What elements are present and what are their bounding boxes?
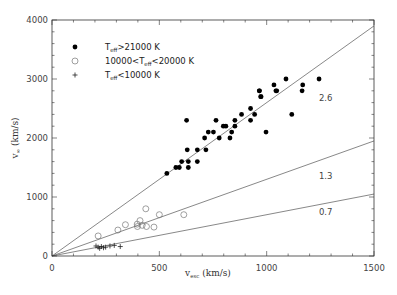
filled-circle-marker (185, 147, 190, 152)
open-circle-marker (181, 212, 187, 218)
filled-circle-marker (186, 159, 191, 164)
filled-circle-marker (232, 124, 237, 129)
plot-frame (52, 20, 374, 256)
reference-line (52, 141, 374, 256)
plus-marker (118, 244, 123, 249)
filled-circle-marker (239, 112, 244, 117)
legend-entry: 10000<Teff<20000 K (105, 56, 194, 67)
reference-lines: 2.61.30.7 (52, 26, 374, 256)
filled-circle-marker (73, 45, 78, 50)
x-tick-label: 1500 (363, 263, 385, 273)
slope-label: 0.7 (319, 207, 333, 217)
y-tick-label: 2000 (26, 133, 48, 143)
filled-circle-marker (223, 124, 228, 129)
reference-line (52, 26, 374, 256)
legend: Teff>21000 K10000<Teff<20000 KTeff<10000… (72, 42, 194, 81)
filled-circle-marker (184, 118, 189, 123)
filled-circle-marker (273, 88, 278, 93)
filled-circle-marker (300, 88, 305, 93)
filled-circle-marker (228, 136, 233, 141)
x-tick-label: 500 (151, 263, 167, 273)
legend-entry: Teff<10000 K (104, 70, 160, 81)
open-circle-marker (122, 222, 128, 228)
plus-marker (73, 73, 78, 78)
filled-circle-marker (214, 118, 219, 123)
x-tick-label: 0 (49, 263, 54, 273)
filled-circle-marker (195, 159, 200, 164)
open-circle-marker (95, 233, 101, 239)
filled-circle-marker (258, 94, 263, 99)
filled-circle-marker (272, 83, 277, 88)
filled-circle-marker (206, 130, 211, 135)
y-axis-label: v∞ (km/s) (10, 117, 21, 159)
x-tick-label: 1000 (256, 263, 278, 273)
filled-circle-marker (284, 77, 289, 82)
filled-circle-marker (195, 147, 200, 152)
x-axis-label: vesc (km/s) (184, 268, 231, 279)
filled-circle-marker (177, 165, 182, 170)
filled-circle-marker (248, 106, 253, 111)
filled-circle-marker (179, 159, 184, 164)
filled-circle-marker (204, 147, 209, 152)
open-circle-marker (72, 58, 78, 64)
axes: 05001000150001000200030004000 (26, 15, 384, 273)
y-tick-label: 4000 (26, 15, 48, 25)
filled-circle-marker (186, 165, 191, 170)
open-circle-marker (143, 206, 149, 212)
filled-circle-marker (248, 118, 253, 123)
slope-label: 2.6 (319, 93, 333, 103)
filled-circle-marker (164, 171, 169, 176)
filled-circle-marker (229, 130, 234, 135)
open-circle-marker (151, 224, 157, 230)
filled-circle-marker (317, 77, 322, 82)
scatter-chart: 2.61.30.7 05001000150001000200030004000 … (0, 0, 397, 295)
filled-circle-marker (202, 136, 207, 141)
y-tick-label: 1000 (26, 192, 48, 202)
open-circle-marker (143, 224, 149, 230)
filled-circle-marker (217, 136, 222, 141)
filled-circle-marker (257, 88, 262, 93)
slope-label: 1.3 (319, 171, 333, 181)
open-circle-marker (156, 212, 162, 218)
legend-entry: Teff>21000 K (104, 42, 160, 53)
filled-circle-marker (232, 118, 237, 123)
y-tick-label: 3000 (26, 74, 48, 84)
filled-circle-marker (289, 112, 294, 117)
filled-circle-marker (264, 130, 269, 135)
data-markers (94, 77, 322, 251)
filled-circle-marker (252, 112, 257, 117)
filled-circle-marker (211, 130, 216, 135)
filled-circle-marker (300, 83, 305, 88)
y-tick-label: 0 (43, 251, 48, 261)
